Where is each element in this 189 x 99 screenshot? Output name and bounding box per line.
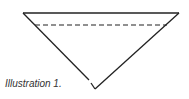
illustration-caption: Illustration 1. bbox=[5, 78, 62, 89]
triangle-left-edge bbox=[23, 13, 89, 80]
triangle-right-edge bbox=[95, 13, 179, 89]
triangle-left-edge-tip bbox=[91, 83, 95, 89]
